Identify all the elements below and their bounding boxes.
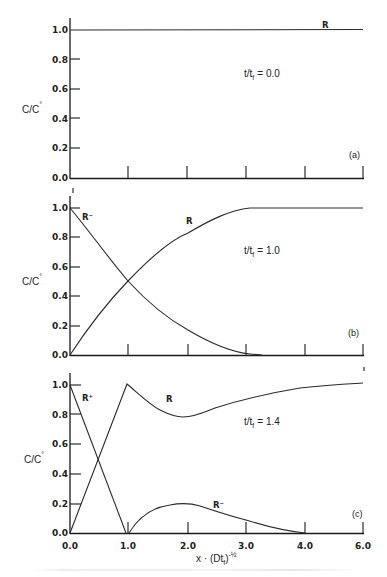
x-ticks (128, 522, 363, 533)
ytick-label: 0.0 (52, 528, 68, 538)
curve-label-r-minus: R⁻ (213, 500, 224, 510)
y-tick-labels: 1.0 0.8 0.6 0.4 0.2 0.0 (52, 203, 68, 360)
ytick-label: 0.4 (52, 114, 68, 124)
y-ticks (70, 385, 81, 504)
curve-label-r-minus: R⁻ (82, 212, 93, 222)
ytick-label: 0.2 (52, 499, 68, 509)
curve-label-r-plus: R⁺ (82, 393, 93, 403)
xtick-label: 4.0 (297, 541, 313, 551)
ytick-label: 0.4 (52, 291, 68, 301)
panel-b: 1.0 0.8 0.6 0.4 0.2 0.0 C/C° R⁻ R t/tf= … (22, 196, 364, 360)
time-annotation: t/tf= 1.0 (244, 245, 280, 258)
x-ticks (128, 166, 363, 178)
ytick-label: 0.8 (52, 232, 68, 242)
cropped-caption-line (30, 569, 360, 571)
ytick-label: 0.6 (52, 84, 68, 94)
ytick-label: 0.8 (52, 410, 68, 420)
curve-label-r: R (166, 394, 173, 404)
ytick-label: 1.0 (52, 25, 68, 35)
y-axis-label: C/C° (22, 273, 42, 287)
ytick-label: 0.6 (52, 262, 68, 272)
figure: 1.0 0.8 0.6 0.4 0.2 0.0 C/C° R t/tf= 0.0… (0, 0, 387, 577)
panel-tag: (b) (348, 328, 359, 338)
y-ticks (70, 59, 80, 148)
y-axis-label: C/C° (22, 101, 42, 115)
ytick-label: 0.6 (52, 439, 68, 449)
time-annotation: t/tf= 0.0 (244, 68, 280, 81)
y-axis-label: C/C° (24, 451, 44, 465)
xtick-label: 3.0 (238, 541, 254, 551)
xtick-label: 6.0 (355, 541, 371, 551)
xtick-label: 2.0 (180, 541, 196, 551)
panel-c: 1.0 0.8 0.6 0.4 0.2 0.0 0.0 1.0 2.0 3.0 … (24, 373, 371, 566)
panel-tag: (c) (352, 509, 363, 519)
xtick-label: 1.0 (120, 541, 136, 551)
ytick-label: 0.4 (52, 469, 68, 479)
xtick-label: 0.0 (62, 541, 78, 551)
curve-label-r: R (322, 20, 329, 30)
curve-r-minus (70, 208, 262, 355)
panel-a: 1.0 0.8 0.6 0.4 0.2 0.0 C/C° R t/tf= 0.0… (22, 18, 364, 183)
ytick-label: 1.0 (52, 380, 68, 390)
ytick-label: 0.2 (52, 321, 68, 331)
curve-label-r: R (186, 216, 193, 226)
curve-r (70, 30, 363, 31)
time-annotation: t/tf= 1.4 (244, 416, 280, 429)
ytick-label: 0.0 (52, 173, 68, 183)
y-tick-labels: 1.0 0.8 0.6 0.4 0.2 0.0 (52, 25, 68, 183)
ytick-label: 0.2 (52, 143, 68, 153)
x-axis-label: x · (Dtf)-½ (196, 551, 237, 566)
curve-r (70, 383, 363, 533)
ytick-label: 0.0 (52, 350, 68, 360)
ytick-label: 0.8 (52, 55, 68, 65)
curve-r (70, 208, 363, 355)
y-tick-labels: 1.0 0.8 0.6 0.4 0.2 0.0 (52, 380, 68, 538)
y-ticks (70, 208, 80, 326)
ytick-label: 1.0 (52, 203, 68, 213)
panel-tag: (a) (349, 150, 360, 160)
x-tick-labels: 0.0 1.0 2.0 3.0 4.0 6.0 (62, 541, 371, 551)
